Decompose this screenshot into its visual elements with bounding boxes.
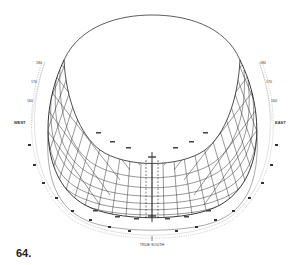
svg-text:170: 170	[31, 80, 37, 84]
west-side-scale: 180 170 160 WEST	[14, 61, 45, 125]
east-side-scale: 180 170 160 EAST	[259, 61, 286, 125]
west-label: WEST	[14, 120, 26, 125]
dome-rim	[64, 15, 240, 60]
figure-number: 64.	[16, 247, 31, 259]
svg-text:180: 180	[260, 61, 266, 65]
band-inner-edge	[64, 60, 240, 164]
east-label: EAST	[275, 120, 286, 125]
sun-path-diagram: 180 170 160 WEST 180 170 160 EAST TRUE S…	[0, 0, 303, 265]
svg-text:160: 160	[27, 99, 33, 103]
svg-text:170: 170	[266, 80, 272, 84]
meridian-marker	[146, 152, 158, 222]
svg-text:180: 180	[36, 61, 42, 65]
true-south-label: TRUE SOUTH	[140, 243, 165, 247]
svg-text:160: 160	[271, 99, 277, 103]
